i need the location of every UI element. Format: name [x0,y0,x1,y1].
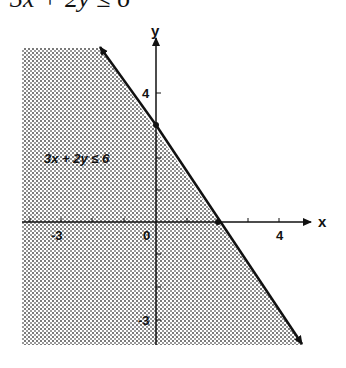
y-tick-label-4: 4 [142,86,150,101]
y-axis-label: y [151,22,160,39]
y-intercept-point [153,122,159,128]
y-tick-label-neg3: -3 [138,313,150,328]
x-tick-label-4: 4 [276,228,284,243]
x-intercept-point [215,219,221,225]
x-tick-label-neg3: -3 [51,228,63,243]
inequality-label: 3x + 2y ≤ 6 [44,151,110,166]
inequality-graph: y x -3 0 4 4 -3 3x + 2y ≤ 6 [0,0,346,368]
shaded-solution-region [22,48,302,345]
x-tick-label-zero: 0 [143,228,150,243]
x-axis-label: x [318,213,327,230]
